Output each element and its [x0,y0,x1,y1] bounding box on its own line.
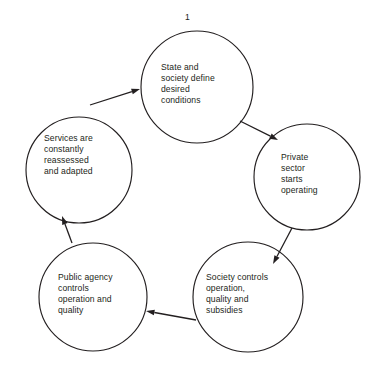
node-label-society-controls: Society controls operation, quality and … [206,272,268,316]
arrow-public-agency-to-services-line [65,224,72,243]
arrow-services-to-state-line [90,92,132,105]
cycle-diagram: 1 State and society define desired condi… [0,0,371,366]
node-label-state-society-define: State and society define desired conditi… [161,62,215,106]
arrow-services-to-state-head-icon [131,89,140,95]
arrow-services-to-state [90,89,140,105]
figure-number-label: 1 [185,12,190,22]
arrow-state-to-private [240,121,278,140]
node-label-private-sector-operating: Private sector starts operating [281,152,318,196]
arrow-private-to-society-line [277,228,292,256]
arrow-society-to-public-agency-head-icon [146,310,155,316]
node-label-services-reassessed: Services are constantly reassessed and a… [44,133,93,177]
arrow-state-to-private-line [240,121,270,136]
node-label-public-agency-controls: Public agency controls operation and qua… [58,272,113,316]
arrow-society-to-public-agency-line [154,313,196,320]
arrow-society-to-public-agency [146,310,196,320]
